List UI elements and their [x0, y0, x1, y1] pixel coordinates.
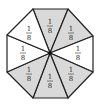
octagon-fraction-diagram: 1818181818181818 — [0, 0, 103, 107]
fraction-denominator: 8 — [69, 75, 73, 83]
fraction-denominator: 8 — [27, 75, 31, 83]
fraction-denominator: 8 — [21, 54, 25, 62]
fraction-numerator: 1 — [48, 73, 52, 81]
fraction-numerator: 1 — [69, 25, 73, 33]
fraction-denominator: 8 — [48, 27, 52, 35]
fraction-denominator: 8 — [48, 82, 52, 90]
fraction-numerator: 1 — [76, 45, 80, 53]
fraction-numerator: 1 — [69, 66, 73, 74]
fraction-denominator: 8 — [27, 34, 31, 42]
fraction-denominator: 8 — [76, 54, 80, 62]
center-point — [48, 51, 52, 55]
fraction-denominator: 8 — [69, 34, 73, 42]
fraction-numerator: 1 — [21, 45, 25, 53]
fraction-numerator: 1 — [27, 66, 31, 74]
fraction-numerator: 1 — [27, 25, 31, 33]
fraction-numerator: 1 — [48, 18, 52, 26]
